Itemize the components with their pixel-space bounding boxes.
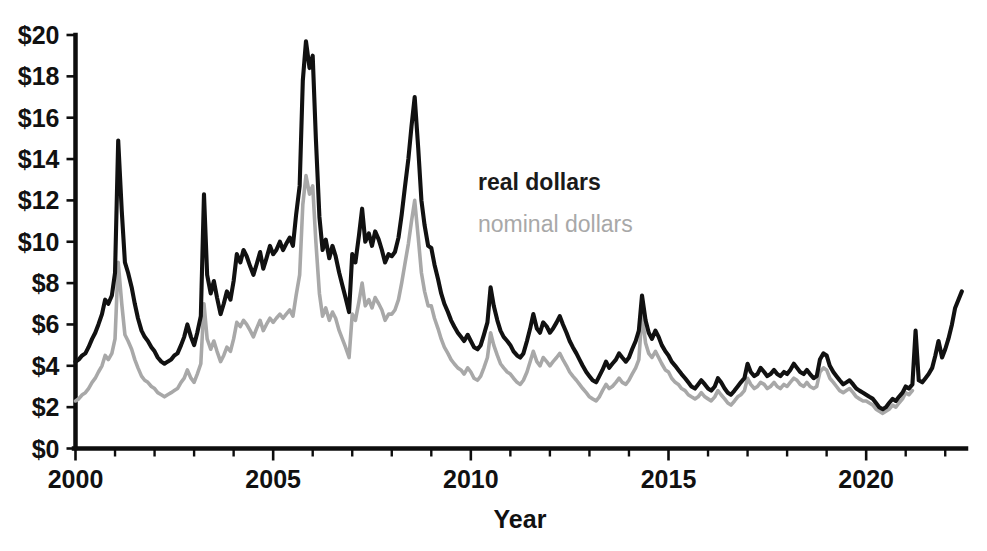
x-tick-label: 2000	[48, 465, 104, 493]
y-tick-label: $14	[18, 145, 60, 173]
y-tick-label: $6	[32, 310, 60, 338]
x-tick-label: 2005	[245, 465, 301, 493]
x-tick-label: 2010	[443, 465, 499, 493]
y-tick-label: $0	[32, 435, 60, 463]
legend-label-real: real dollars	[478, 169, 601, 195]
legend-label-nominal: nominal dollars	[478, 211, 633, 237]
x-axis-labels: 20002005201020152020	[48, 465, 894, 493]
y-tick-label: $8	[32, 269, 60, 297]
x-axis-title: Year	[494, 505, 547, 533]
y-tick-label: $12	[18, 186, 60, 214]
y-tick-label: $4	[32, 352, 60, 380]
y-tick-label: $10	[18, 228, 60, 256]
chart-container: $0$2$4$6$8$10$12$14$16$18$20 20002005201…	[0, 0, 987, 551]
line-chart: $0$2$4$6$8$10$12$14$16$18$20 20002005201…	[0, 0, 987, 551]
x-tick-label: 2020	[838, 465, 894, 493]
y-tick-label: $20	[18, 21, 60, 49]
y-tick-label: $16	[18, 104, 60, 132]
x-tick-label: 2015	[641, 465, 697, 493]
y-tick-label: $2	[32, 393, 60, 421]
y-tick-label: $18	[18, 62, 60, 90]
y-axis-labels: $0$2$4$6$8$10$12$14$16$18$20	[18, 21, 60, 463]
